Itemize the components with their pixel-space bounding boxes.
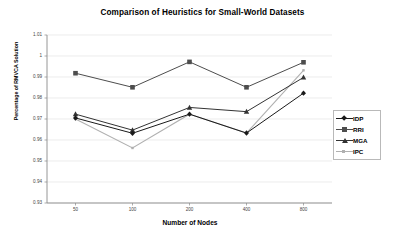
- legend-label: RRI: [353, 124, 364, 135]
- data-point: [130, 85, 135, 90]
- legend-symbol: [342, 150, 345, 153]
- data-series-layer: [73, 60, 306, 150]
- chart-legend: IDPRRIMGAIPC: [333, 110, 381, 160]
- legend-symbol: [342, 138, 348, 143]
- legend-item-mga: MGA: [335, 135, 379, 146]
- x-axis-tick-label: 200: [170, 207, 210, 212]
- data-point: [302, 69, 304, 71]
- legend-marker-line-icon: [336, 146, 353, 157]
- legend-symbol: [342, 127, 347, 132]
- legend-marker-square-icon: [336, 124, 353, 135]
- x-axis-tick-label: 400: [227, 207, 267, 212]
- data-point: [187, 111, 192, 116]
- legend-label: MGA: [353, 135, 367, 146]
- x-axis-label: Number of Nodes: [45, 219, 335, 226]
- chart-container: Comparison of Heuristics for Small-World…: [0, 0, 405, 244]
- data-point: [301, 90, 306, 95]
- legend-label: IDP: [353, 113, 363, 124]
- legend-marker-diamond-icon: [336, 113, 353, 124]
- legend-item-ipc: IPC: [335, 146, 379, 157]
- legend-label: IPC: [353, 146, 363, 157]
- x-axis-tick-label: 100: [113, 207, 153, 212]
- legend-symbol: [341, 115, 347, 121]
- data-point: [301, 60, 306, 65]
- series-line: [76, 62, 304, 87]
- series-rri: [73, 60, 306, 90]
- legend-item-idp: IDP: [335, 113, 379, 124]
- legend-marker-triangle-icon: [336, 135, 353, 146]
- series-line: [76, 77, 304, 130]
- data-point: [131, 147, 133, 149]
- legend-item-rri: RRI: [335, 124, 379, 135]
- data-point: [73, 71, 78, 76]
- series-mga: [73, 75, 306, 133]
- data-point: [244, 85, 249, 90]
- data-point: [187, 60, 192, 65]
- x-axis-tick-label: 800: [284, 207, 324, 212]
- x-axis-tick-label: 50: [56, 207, 96, 212]
